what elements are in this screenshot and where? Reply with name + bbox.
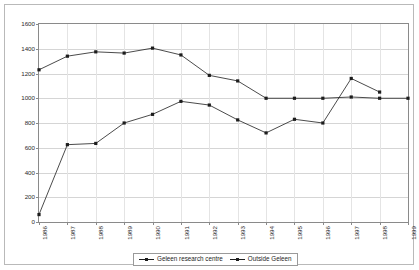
legend-marker-icon [230, 256, 245, 263]
x-axis-tick [294, 222, 295, 225]
y-axis-tick-label: 1400 [21, 46, 35, 52]
data-point-marker [350, 77, 353, 80]
data-point-marker [94, 142, 97, 145]
x-axis-tick-label: 1997 [354, 226, 360, 240]
data-point-marker [37, 213, 40, 216]
x-axis-tick [408, 222, 409, 225]
chart-legend: Geleen research centre Outside Geleen [133, 253, 298, 266]
legend-marker-icon [139, 256, 154, 263]
y-axis-tick-label: 800 [25, 120, 35, 126]
x-axis-tick [209, 222, 210, 225]
x-axis-tick-label: 1994 [269, 226, 275, 240]
data-point-marker [293, 118, 296, 121]
x-axis-tick [351, 222, 352, 225]
data-series-layer [39, 24, 408, 222]
data-point-marker [293, 97, 296, 100]
x-axis-tick [181, 222, 182, 225]
data-point-marker [37, 68, 40, 71]
data-point-marker [66, 143, 69, 146]
legend-item-geleen-research-centre: Geleen research centre [139, 256, 223, 263]
chart-frame: 02004006008001000120014001600 1986198719… [4, 4, 414, 265]
x-axis-tick [96, 222, 97, 225]
x-axis-tick-label: 1988 [98, 226, 104, 240]
y-axis-tick-label: 200 [25, 194, 35, 200]
legend-label: Outside Geleen [248, 256, 292, 262]
data-point-marker [208, 74, 211, 77]
x-axis-tick-label: 1998 [382, 226, 388, 240]
x-axis-tick-label: 1999 [411, 226, 417, 240]
data-point-marker [94, 50, 97, 53]
y-axis-tick-label: 1600 [21, 21, 35, 27]
x-axis-tick [238, 222, 239, 225]
x-axis-tick [124, 222, 125, 225]
data-point-marker [236, 79, 239, 82]
x-axis-tick [380, 222, 381, 225]
data-point-marker [264, 131, 267, 134]
x-axis-tick-label: 1992 [212, 226, 218, 240]
legend-label: Geleen research centre [157, 256, 223, 262]
data-point-marker [264, 97, 267, 100]
data-point-marker [123, 121, 126, 124]
data-point-marker [378, 97, 381, 100]
x-axis-tick [323, 222, 324, 225]
x-axis-tick-label: 1989 [127, 226, 133, 240]
series-line [39, 48, 408, 98]
x-axis-tick [266, 222, 267, 225]
x-axis-tick [39, 222, 40, 225]
data-point-marker [66, 55, 69, 58]
data-point-marker [321, 121, 324, 124]
x-axis-tick [67, 222, 68, 225]
x-axis-tick-label: 1991 [184, 226, 190, 240]
data-point-marker [123, 51, 126, 54]
data-point-marker [208, 103, 211, 106]
x-axis-tick-label: 1986 [42, 226, 48, 240]
data-point-marker [321, 97, 324, 100]
x-axis-tick-label: 1993 [240, 226, 246, 240]
series-line [39, 78, 380, 214]
data-point-marker [179, 53, 182, 56]
x-axis-tick-label: 1995 [297, 226, 303, 240]
plot-area: 02004006008001000120014001600 1986198719… [38, 23, 409, 223]
data-point-marker [350, 95, 353, 98]
y-axis-tick-label: 1000 [21, 95, 35, 101]
data-point-marker [151, 113, 154, 116]
y-axis-tick-label: 400 [25, 169, 35, 175]
y-axis-tick-label: 1200 [21, 70, 35, 76]
y-axis-tick-label: 600 [25, 145, 35, 151]
y-axis-tick-label: 0 [32, 219, 35, 225]
x-axis-tick-label: 1996 [325, 226, 331, 240]
data-point-marker [378, 90, 381, 93]
data-point-marker [179, 100, 182, 103]
data-point-marker [236, 118, 239, 121]
x-axis-tick-label: 1990 [155, 226, 161, 240]
data-point-marker [406, 97, 409, 100]
x-axis-tick [153, 222, 154, 225]
x-axis-tick-label: 1987 [70, 226, 76, 240]
legend-item-outside-geleen: Outside Geleen [230, 256, 292, 263]
data-point-marker [151, 47, 154, 50]
